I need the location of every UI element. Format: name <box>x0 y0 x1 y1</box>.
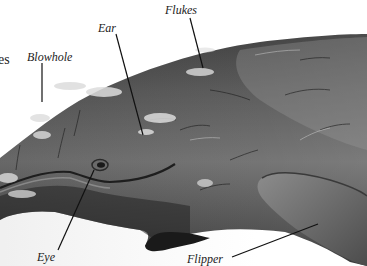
label-flipper: Flipper <box>187 253 223 265</box>
label-flukes: Flukes <box>165 4 197 16</box>
label-blowhole: Blowhole <box>27 51 72 63</box>
label-ear: Ear <box>98 22 116 34</box>
whale-diagram: es Blowhole Ear Flukes Eye Flipper <box>0 0 367 266</box>
label-eye: Eye <box>37 251 55 263</box>
label-partial: es <box>0 53 10 67</box>
whale-illustration <box>0 0 367 266</box>
